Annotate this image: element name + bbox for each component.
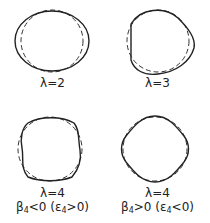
lambda4-negative-shape [18,117,82,181]
reference-sphere [123,117,187,181]
reference-sphere [18,117,82,181]
lambda4-neg-label: λ=4 [0,186,105,200]
lambda2-shape [15,10,89,72]
lambda4-pos-condition: β4>0 (ε4<0) [105,200,210,218]
deformed-outline [15,11,89,71]
lambda2-label: λ=2 [0,76,105,90]
lambda4-positive-shape [122,116,189,182]
lambda3-shape [127,10,194,74]
lambda4-neg-condition: β4<0 (ε4>0) [0,200,105,218]
reference-sphere [21,10,83,72]
lambda4-pos-label: λ=4 [105,186,210,200]
deformed-outline [21,118,80,181]
deformed-outline [131,10,194,74]
lambda3-label: λ=3 [105,76,210,90]
deformed-outline [122,116,189,182]
